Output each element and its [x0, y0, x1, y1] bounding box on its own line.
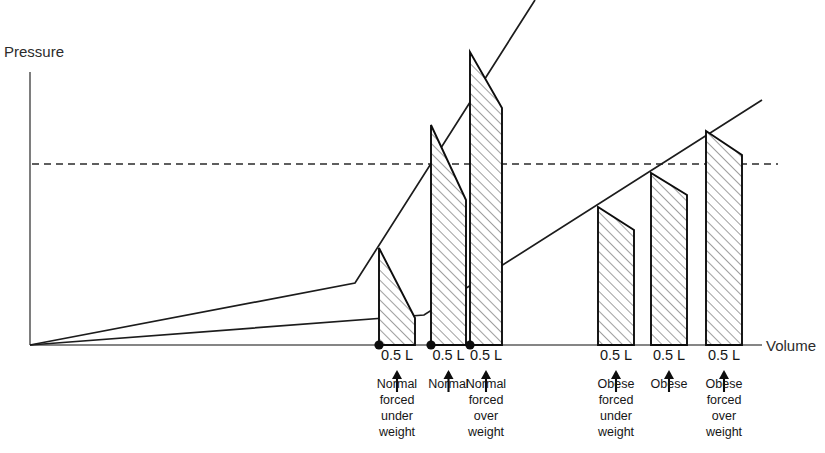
normal-forced-under-weight-bar-description-line: weight	[378, 425, 416, 439]
obese-forced-under-weight-bar-description-line: weight	[597, 425, 635, 439]
normal-forced-over-weight-bar-description-line: Normal	[466, 377, 506, 391]
figure-canvas: 0.5 LNormalforcedunderweight0.5 LNormal0…	[0, 0, 825, 453]
obese-forced-over-weight-bar-description-line: Obese	[706, 377, 743, 391]
obese-bar	[651, 173, 687, 345]
obese-forced-over-weight-bar-description-line: forced	[707, 393, 742, 407]
normal-bar-description-line: Normal	[428, 377, 468, 391]
bars-layer	[374, 52, 742, 350]
normal-forced-under-weight-bar-description-line: Normal	[377, 377, 417, 391]
labels-layer: 0.5 LNormalforcedunderweight0.5 LNormal0…	[377, 347, 743, 439]
obese-forced-over-weight-bar	[706, 131, 742, 345]
obese-bar-volume-label: 0.5 L	[653, 347, 685, 363]
normal-bar	[431, 125, 466, 345]
obese-forced-under-weight-bar	[598, 207, 634, 345]
obese-bar-description-line: Obese	[651, 377, 688, 391]
normal-forced-over-weight-bar-description-line: over	[474, 409, 498, 423]
obese-forced-over-weight-bar-description-line: weight	[705, 425, 743, 439]
obese-forced-under-weight-bar-description-line: Obese	[598, 377, 635, 391]
normal-forced-under-weight-bar-volume-label: 0.5 L	[381, 347, 413, 363]
normal-forced-under-weight-bar-description-line: under	[381, 409, 413, 423]
obese-forced-under-weight-bar-description-line: forced	[599, 393, 634, 407]
obese-forced-over-weight-bar-description-line: over	[712, 409, 736, 423]
normal-bar-volume-label: 0.5 L	[432, 347, 464, 363]
normal-forced-over-weight-bar-volume-label: 0.5 L	[470, 347, 502, 363]
obese-forced-under-weight-bar-volume-label: 0.5 L	[600, 347, 632, 363]
normal-forced-under-weight-bar	[379, 248, 415, 345]
obese-forced-under-weight-bar-description-line: under	[600, 409, 632, 423]
pressure-axis-label: Pressure	[4, 43, 64, 60]
normal-forced-under-weight-bar-description-line: forced	[380, 393, 415, 407]
normal-forced-over-weight-bar-description-line: weight	[467, 425, 505, 439]
obese-forced-over-weight-bar-volume-label: 0.5 L	[708, 347, 740, 363]
volume-axis-label: Volume	[766, 337, 816, 354]
normal-forced-over-weight-bar	[470, 52, 502, 345]
pressure-volume-figure: 0.5 LNormalforcedunderweight0.5 LNormal0…	[0, 0, 825, 453]
normal-forced-over-weight-bar-description-line: forced	[469, 393, 504, 407]
